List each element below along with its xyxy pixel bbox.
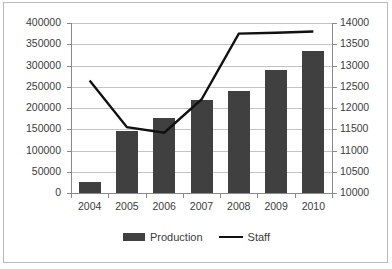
legend-label-production: Production — [150, 231, 203, 243]
category-label-2005: 2005 — [107, 201, 147, 212]
staff-polyline — [90, 32, 314, 133]
right-axis-tick — [333, 193, 337, 194]
left-axis-tick-label: 50000 — [1, 166, 61, 177]
category-label-2004: 2004 — [70, 201, 110, 212]
right-axis-tick — [333, 108, 337, 109]
category-axis-tick — [332, 194, 333, 198]
category-label-2008: 2008 — [219, 201, 259, 212]
right-axis-tick — [333, 87, 337, 88]
category-label-2006: 2006 — [144, 201, 184, 212]
legend-item-production: Production — [123, 231, 203, 243]
right-axis-tick — [333, 66, 337, 67]
right-axis-tick-label: 12000 — [340, 102, 390, 113]
chart-legend: Production Staff — [4, 231, 389, 243]
staff-swatch-icon — [219, 236, 243, 238]
right-axis-tick — [333, 44, 337, 45]
left-axis-tick-label: 300000 — [1, 60, 61, 71]
category-axis-tick — [295, 194, 296, 198]
production-swatch-icon — [123, 233, 145, 241]
right-axis-tick-label: 11500 — [340, 123, 390, 134]
category-axis-tick — [71, 194, 72, 198]
right-axis-tick — [333, 151, 337, 152]
left-axis-tick-label: 0 — [1, 187, 61, 198]
category-axis-tick — [108, 194, 109, 198]
category-axis-tick — [146, 194, 147, 198]
right-axis-tick-label: 11000 — [340, 145, 390, 156]
left-axis-tick-label: 100000 — [1, 145, 61, 156]
right-axis-tick-label: 10500 — [340, 166, 390, 177]
left-axis-tick-label: 150000 — [1, 123, 61, 134]
chart-frame: 0500001000001500002000002500003000003500… — [3, 2, 388, 263]
right-axis-tick-label: 13500 — [340, 38, 390, 49]
right-axis-tick — [333, 23, 337, 24]
category-axis-tick — [220, 194, 221, 198]
right-axis-tick-label: 10000 — [340, 187, 390, 198]
right-axis-tick — [333, 129, 337, 130]
right-axis-tick-label: 12500 — [340, 81, 390, 92]
left-axis-tick-label: 350000 — [1, 38, 61, 49]
category-label-2010: 2010 — [293, 201, 333, 212]
right-axis-tick-label: 14000 — [340, 17, 390, 28]
left-axis-tick-label: 200000 — [1, 102, 61, 113]
right-axis-tick-label: 13000 — [340, 60, 390, 71]
category-axis-tick — [183, 194, 184, 198]
legend-label-staff: Staff — [248, 231, 270, 243]
plot-right-border — [332, 23, 333, 194]
legend-item-staff: Staff — [219, 231, 270, 243]
staff-line-series — [71, 23, 332, 193]
left-axis-tick-label: 250000 — [1, 81, 61, 92]
left-axis-tick-label: 400000 — [1, 17, 61, 28]
gridline — [71, 193, 332, 194]
category-label-2009: 2009 — [256, 201, 296, 212]
category-label-2007: 2007 — [182, 201, 222, 212]
category-axis-tick — [257, 194, 258, 198]
right-axis-tick — [333, 172, 337, 173]
